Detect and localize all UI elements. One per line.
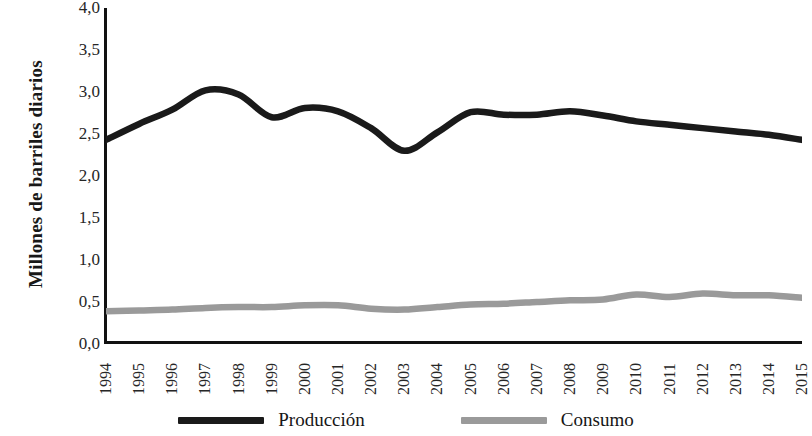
x-axis-tick-label: 2012 — [692, 350, 714, 404]
x-axis-tick-label: 1998 — [228, 350, 250, 404]
y-axis-tick-label: 3,0 — [56, 82, 100, 102]
y-axis-tick-label: 0,0 — [56, 334, 100, 354]
x-axis-tick-label: 1997 — [194, 350, 216, 404]
x-axis-tick-label: 2015 — [791, 350, 812, 404]
plot-area — [106, 8, 802, 344]
y-axis-tick-label: 1,5 — [56, 208, 100, 228]
x-axis-tick-label: 2011 — [658, 350, 680, 404]
legend-swatch-icon — [178, 417, 264, 424]
y-axis-tick-label: 3,5 — [56, 40, 100, 60]
x-axis-tick-label: 2005 — [460, 350, 482, 404]
legend-item[interactable]: Producción — [178, 409, 365, 431]
y-axis-tick-label: 0,5 — [56, 292, 100, 312]
series-line — [106, 89, 802, 151]
legend-label: Producción — [278, 409, 365, 431]
y-axis-tick-label: 4,0 — [56, 0, 100, 18]
x-axis-tick-label: 2014 — [758, 350, 780, 404]
legend-item[interactable]: Consumo — [461, 409, 634, 431]
x-axis-tick-label: 2003 — [393, 350, 415, 404]
x-axis-tick-label: 2010 — [625, 350, 647, 404]
x-axis-tick-label: 2006 — [493, 350, 515, 404]
x-axis-tick-label: 2001 — [327, 350, 349, 404]
y-axis-title-container: Millones de barriles diarios — [16, 0, 56, 348]
y-axis-tick-label: 1,0 — [56, 250, 100, 270]
y-axis-title: Millones de barriles diarios — [25, 60, 47, 288]
x-axis-tick-label: 2013 — [725, 350, 747, 404]
x-axis-tick-label: 2008 — [559, 350, 581, 404]
y-axis-tick-label: 2,5 — [56, 124, 100, 144]
x-axis-tick-label: 1999 — [261, 350, 283, 404]
x-axis-tick-label: 2009 — [592, 350, 614, 404]
chart-figure: Millones de barriles diarios 0,00,51,01,… — [0, 0, 812, 436]
x-axis-tick-label: 2002 — [360, 350, 382, 404]
x-axis-tick-label: 2007 — [526, 350, 548, 404]
x-axis-tick-label: 1995 — [128, 350, 150, 404]
series-line — [106, 294, 802, 312]
x-axis-tick-label: 1996 — [161, 350, 183, 404]
legend-swatch-icon — [461, 417, 547, 424]
y-axis-tick-labels: 0,00,51,01,52,02,53,03,54,0 — [52, 0, 100, 348]
x-axis-tick-label: 2000 — [294, 350, 316, 404]
x-axis-tick-label: 2004 — [426, 350, 448, 404]
chart-legend: ProducciónConsumo — [0, 404, 812, 436]
legend-label: Consumo — [561, 409, 634, 431]
y-axis-tick-label: 2,0 — [56, 166, 100, 186]
x-axis-tick-labels: 1994199519961997199819992000200120022003… — [106, 350, 802, 406]
x-axis-tick-label: 1994 — [95, 350, 117, 404]
series-canvas — [106, 8, 802, 344]
